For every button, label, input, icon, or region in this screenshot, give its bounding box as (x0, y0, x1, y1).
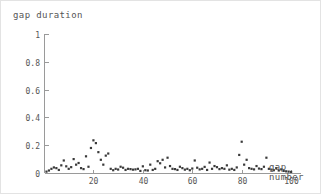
data-point (248, 167, 250, 169)
data-point (87, 166, 89, 168)
y-tick-label: 0.4 (26, 114, 41, 123)
y-tick-label: 0.8 (26, 59, 41, 68)
data-point (241, 141, 243, 143)
data-point (236, 166, 238, 168)
data-point (171, 168, 173, 170)
data-point (191, 167, 193, 169)
data-point (65, 165, 67, 167)
data-point (90, 147, 92, 149)
data-point (250, 168, 252, 170)
y-tick-label: 0.6 (26, 87, 41, 96)
data-point (162, 159, 164, 161)
data-point (176, 169, 178, 171)
x-tick-label: 20 (89, 177, 99, 186)
data-point (85, 155, 87, 157)
data-point (127, 168, 129, 170)
data-point (78, 162, 80, 164)
data-point (189, 169, 191, 171)
data-point (45, 171, 47, 173)
x-axis-label-line2: number (269, 172, 304, 182)
data-point (196, 167, 198, 169)
data-point (97, 151, 99, 153)
data-point (107, 152, 109, 154)
data-point (260, 168, 262, 170)
data-point (63, 159, 65, 161)
x-tick-label: 60 (188, 177, 198, 186)
data-point (152, 169, 154, 171)
data-point (110, 168, 112, 170)
data-point (164, 166, 166, 168)
data-point (122, 167, 124, 169)
data-point (221, 167, 223, 169)
data-point (100, 159, 102, 161)
data-point (223, 168, 225, 170)
data-point (149, 164, 151, 166)
data-point (226, 164, 228, 166)
data-point (255, 165, 257, 167)
y-tick-label: 1 (35, 31, 40, 40)
data-point (218, 168, 220, 170)
x-axis-label: gap number (269, 162, 304, 182)
data-point (206, 169, 208, 171)
data-point (208, 161, 210, 163)
data-point (117, 168, 119, 170)
data-point (231, 168, 233, 170)
data-point (169, 165, 171, 167)
y-axis: 00.20.40.60.81 (26, 31, 49, 179)
data-point (204, 166, 206, 168)
data-point (112, 169, 114, 171)
data-point (154, 168, 156, 170)
data-point (68, 168, 70, 170)
data-point (144, 169, 146, 171)
data-point (48, 169, 50, 171)
data-point (137, 168, 139, 170)
data-point (213, 165, 215, 167)
data-point (233, 169, 235, 171)
data-point (60, 164, 62, 166)
data-point (50, 168, 52, 170)
data-point (75, 164, 77, 166)
data-point (181, 167, 183, 169)
data-point (55, 167, 57, 169)
data-point (73, 158, 75, 160)
data-point (82, 168, 84, 170)
data-point (134, 168, 136, 170)
data-point (258, 167, 260, 169)
data-point (159, 162, 161, 164)
data-point (92, 139, 94, 141)
data-point (194, 159, 196, 161)
data-point (53, 166, 55, 168)
data-point (243, 164, 245, 166)
data-points-layer (45, 139, 292, 173)
x-axis-label-line1: gap (269, 162, 304, 172)
data-point (263, 166, 265, 168)
data-point (124, 169, 126, 171)
data-point (157, 160, 159, 162)
data-point (102, 164, 104, 166)
data-point (238, 154, 240, 156)
data-point (132, 169, 134, 171)
data-point (166, 157, 168, 159)
data-point (139, 170, 141, 172)
y-tick-label: 0 (35, 170, 40, 179)
data-point (216, 166, 218, 168)
data-point (174, 168, 176, 170)
data-point (199, 168, 201, 170)
data-point (95, 142, 97, 144)
data-point (58, 169, 60, 171)
y-tick-label: 0.2 (26, 142, 41, 151)
data-point (201, 168, 203, 170)
data-point (179, 166, 181, 168)
data-point (120, 166, 122, 168)
x-axis: 20406080100 (45, 170, 302, 186)
data-point (211, 168, 213, 170)
data-point (147, 169, 149, 171)
data-point (105, 155, 107, 157)
x-tick-label: 80 (238, 177, 248, 186)
data-point (246, 159, 248, 161)
data-point (228, 169, 230, 171)
chart-screenshot: gap duration 00.20.40.60.81 20406080100 … (0, 0, 321, 194)
x-tick-label: 40 (139, 177, 149, 186)
data-point (142, 165, 144, 167)
data-point (80, 167, 82, 169)
